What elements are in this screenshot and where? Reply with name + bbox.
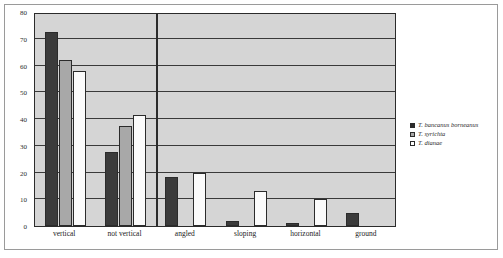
legend-label: T. syrichta: [418, 130, 445, 138]
bar-group: [95, 14, 155, 226]
bar-group: [216, 14, 276, 226]
y-axis-tick-label: 60: [20, 63, 27, 71]
legend-item: T. bancanus borneanus: [410, 121, 500, 129]
y-axis-tick-label: 20: [20, 170, 27, 178]
group-divider-line: [156, 14, 158, 226]
y-axis-tick-label: 10: [20, 196, 27, 204]
legend-label: T. bancanus borneanus: [418, 121, 478, 129]
x-axis-tick-label: vertical: [53, 229, 76, 238]
bar: [226, 221, 239, 226]
x-axis: verticalnot verticalangledslopinghorizon…: [34, 229, 396, 243]
y-axis-tick-label: 80: [20, 9, 27, 17]
legend-swatch-icon: [410, 141, 415, 146]
y-axis-tick-label: 0: [24, 223, 28, 231]
legend-swatch-icon: [410, 132, 415, 137]
bar: [286, 223, 299, 226]
y-axis: 01020304050607080: [0, 13, 31, 227]
y-axis-tick-label: 70: [20, 36, 27, 44]
x-axis-tick-label: sloping: [234, 229, 256, 238]
legend-label: T. dianae: [418, 139, 442, 147]
bar-group: [35, 14, 95, 226]
figure: 01020304050607080 verticalnot verticalan…: [0, 0, 503, 258]
bar: [314, 199, 327, 226]
y-axis-tick-label: 30: [20, 143, 27, 151]
x-axis-tick-label: horizontal: [290, 229, 320, 238]
legend-item: T. syrichta: [410, 130, 500, 138]
bar-group: [156, 14, 216, 226]
bar: [254, 191, 267, 226]
bar: [119, 126, 132, 226]
bar: [165, 177, 178, 226]
bar-group: [337, 14, 397, 226]
bar: [59, 60, 72, 226]
plot-area: [34, 13, 396, 227]
bar: [193, 173, 206, 227]
x-axis-tick-label: not vertical: [108, 229, 142, 238]
x-axis-tick-label: angled: [175, 229, 195, 238]
legend: T. bancanus borneanusT. syrichtaT. diana…: [410, 121, 500, 148]
legend-item: T. dianae: [410, 139, 500, 147]
bar: [105, 152, 118, 226]
bar: [73, 71, 86, 226]
bar: [346, 213, 359, 226]
y-axis-tick-label: 40: [20, 116, 27, 124]
x-axis-tick-label: ground: [355, 229, 376, 238]
bar: [45, 32, 58, 226]
legend-swatch-icon: [410, 123, 415, 128]
bar-group: [276, 14, 336, 226]
y-axis-tick-label: 50: [20, 89, 27, 97]
bar: [133, 115, 146, 226]
